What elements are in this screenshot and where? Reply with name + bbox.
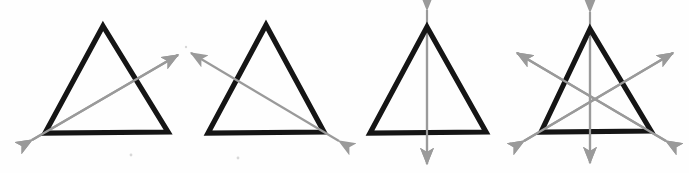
symmetry-figure-canvas	[0, 0, 689, 173]
symmetry-figure: Lines of symmetry on equilateral triangl…	[0, 0, 689, 173]
scan-speck	[185, 46, 187, 48]
scan-speck	[237, 157, 240, 160]
scan-speck	[130, 154, 133, 157]
